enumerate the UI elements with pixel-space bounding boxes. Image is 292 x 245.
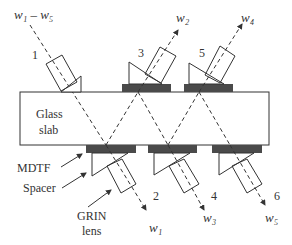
port-label-2: 2 [153,189,159,203]
callout-arrows [61,154,111,207]
lens-label: lens [82,224,102,238]
slab-label-glass: Glass [36,107,63,121]
port-label-1: 1 [32,48,38,62]
bottom-filter-2 [86,145,136,153]
top-filter-3 [122,84,171,92]
output-label-w1: w₁ [149,220,162,235]
mdtf-label: MDTF [17,161,51,175]
port-6-collimator [219,153,262,193]
port-2-collimator [92,153,136,193]
port-label-3: 3 [138,46,144,60]
input-wavelength-label: w₁ – w₅ [14,7,53,22]
output-label-w4: w₄ [241,10,255,25]
spacer-label: Spacer [23,181,56,195]
top-filter-5 [184,84,233,92]
bottom-filter-4 [148,145,197,153]
output-label-w5: w₅ [265,210,278,225]
port-label-4: 4 [211,189,217,203]
output-label-w2: w₂ [176,10,190,25]
demultiplexer-diagram: w₁ – w₅ 1 3 5 2 4 6 w₂ w₄ w₁ w₃ w₅ Glass… [0,0,292,245]
port-label-5: 5 [199,46,205,60]
bottom-filter-6 [212,145,262,153]
port-5-collimator [189,46,235,84]
port-3-collimator [129,47,176,84]
output-label-w3: w₃ [203,210,216,225]
slab-label-slab: slab [39,123,58,137]
port-1-collimator [46,55,81,92]
grin-label: GRIN [77,209,107,223]
port-label-6: 6 [274,189,280,203]
port-4-collimator [154,153,199,193]
